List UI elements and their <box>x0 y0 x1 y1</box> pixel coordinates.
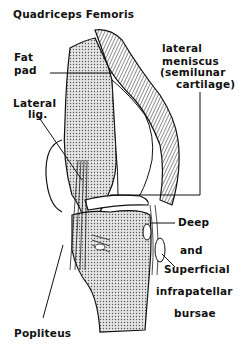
label-fat-pad-line2: pad <box>14 64 37 76</box>
label-quadriceps-femoris: Quadriceps Femoris <box>13 8 134 20</box>
deep-bursa <box>143 224 151 240</box>
superficial-bursa <box>155 238 165 262</box>
label-and: and <box>180 244 203 256</box>
label-infrapatellar: infrapatellar <box>156 285 233 297</box>
label-deep: Deep <box>178 216 209 228</box>
label-bursae: bursae <box>174 307 216 319</box>
label-meniscus-line1: lateral <box>162 42 202 54</box>
label-superficial: Superficial <box>164 263 230 275</box>
label-lateral-lig-line2: lig. <box>28 108 48 120</box>
label-fat-pad-line1: Fat <box>14 51 33 63</box>
label-popliteus: Popliteus <box>14 327 71 339</box>
label-meniscus-line3: (semilunar <box>160 66 226 78</box>
label-meniscus-line4: cartilage) <box>176 78 235 90</box>
meniscus-shape <box>85 195 148 210</box>
knee-diagram <box>0 0 248 350</box>
lateral-ligament-bulge <box>46 140 62 212</box>
tibia-shape <box>72 211 151 332</box>
